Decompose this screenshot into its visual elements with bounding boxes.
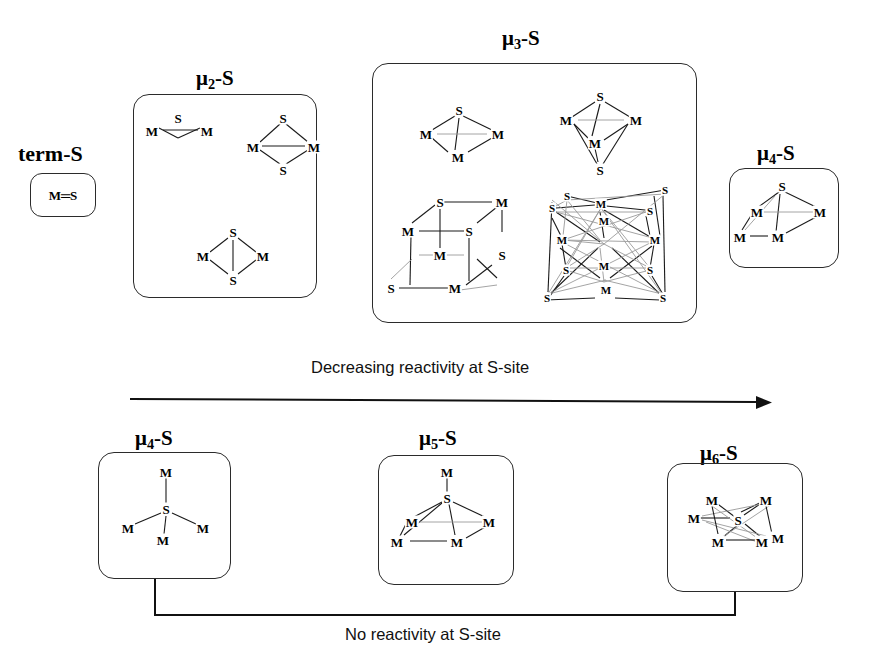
atom-m: M: [598, 216, 610, 227]
atom-m: M: [813, 206, 827, 219]
atom-m: M: [440, 466, 454, 479]
atom-s: S: [464, 225, 473, 238]
atom-m: M: [559, 114, 573, 127]
atom-s: S: [228, 226, 237, 239]
atom-m: M: [156, 534, 170, 547]
atom-s: S: [733, 514, 742, 527]
atom-s: S: [548, 203, 556, 214]
atom-s: S: [777, 180, 786, 193]
atom-s: S: [228, 274, 237, 287]
atom-s: S: [543, 293, 551, 304]
atom-s: S: [646, 265, 654, 276]
atom-m: M: [598, 261, 610, 272]
atom-s: S: [173, 112, 182, 125]
atom-s: S: [161, 503, 170, 516]
atom-s: S: [435, 196, 444, 209]
atom-m: M: [495, 196, 509, 209]
atom-m: M: [771, 231, 785, 244]
atom-m: M: [649, 235, 661, 246]
bonds-mu6-octahedral: [0, 0, 871, 656]
atom-m: M: [755, 536, 769, 549]
atom-m: M: [771, 532, 785, 545]
atom-m: M: [200, 125, 214, 138]
atom-m: M: [595, 199, 607, 210]
atom-m: M: [705, 494, 719, 507]
atom-m: M: [307, 141, 321, 154]
atom-m: M: [145, 125, 159, 138]
figure-canvas: term-S M═S μ2-S S M M S M M S S M M S μ3…: [0, 0, 871, 656]
atom-s: S: [646, 206, 654, 217]
atom-m: M: [711, 536, 725, 549]
atom-m: M: [159, 466, 173, 479]
atom-m: M: [196, 250, 210, 263]
atom-m: M: [246, 141, 260, 154]
atom-terminal-ms: M═S: [48, 189, 79, 202]
atom-s: S: [661, 185, 669, 196]
atom-m: M: [687, 512, 701, 525]
atom-m: M: [588, 137, 602, 150]
atom-s: S: [454, 104, 463, 117]
atom-m: M: [433, 249, 447, 262]
atom-s: S: [595, 90, 604, 103]
atom-m: M: [121, 522, 135, 535]
atom-m: M: [629, 114, 643, 127]
atom-m: M: [450, 536, 464, 549]
atom-m: M: [390, 536, 404, 549]
atom-s: S: [563, 191, 571, 202]
atom-m: M: [482, 516, 496, 529]
atom-s: S: [562, 265, 570, 276]
atom-m: M: [733, 231, 747, 244]
atom-m: M: [451, 151, 465, 164]
atom-s: S: [659, 293, 667, 304]
atom-s: S: [595, 164, 604, 177]
atom-m: M: [405, 516, 419, 529]
atom-m: M: [750, 206, 764, 219]
atom-s: S: [278, 164, 287, 177]
atom-m: M: [491, 128, 505, 141]
atom-m: M: [600, 285, 612, 296]
atom-s: S: [497, 249, 506, 262]
atom-s: S: [278, 112, 287, 125]
atom-m: M: [448, 282, 462, 295]
atom-m: M: [556, 235, 568, 246]
atom-m: M: [196, 522, 210, 535]
atom-s: S: [442, 492, 451, 505]
atom-m: M: [759, 494, 773, 507]
atom-m: M: [419, 128, 433, 141]
atom-s: S: [386, 282, 395, 295]
atom-m: M: [256, 250, 270, 263]
atom-m: M: [401, 225, 415, 238]
